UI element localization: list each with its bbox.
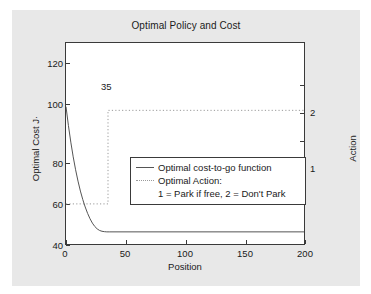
- legend-label-cost: Optimal cost-to-go function: [158, 162, 272, 174]
- x-axis-tick-label-100: 100: [165, 248, 205, 259]
- legend-item-cost: Optimal cost-to-go function: [135, 161, 301, 174]
- legend-item-action: Optimal Action:: [135, 174, 301, 187]
- action-axis-tick-label-2: 2: [310, 107, 330, 118]
- legend-dotted-line-sample: [135, 175, 155, 186]
- figure-canvas: Optimal Policy and Cost 40 60 80 100 120…: [12, 10, 360, 286]
- y-tick-40: [66, 245, 70, 246]
- y-axis-tick-label-120: 120: [23, 58, 63, 69]
- action-axis-tick-label-1: 1: [310, 163, 330, 174]
- x-axis-tick-label-200: 200: [285, 248, 325, 259]
- legend-solid-line-sample: [135, 162, 155, 173]
- chart-legend[interactable]: Optimal cost-to-go function Optimal Acti…: [130, 157, 306, 205]
- chart-title: Optimal Policy and Cost: [12, 20, 360, 31]
- x-axis-tick-label-50: 50: [105, 248, 145, 259]
- legend-label-action: Optimal Action:: [158, 175, 222, 187]
- plot-area: [65, 42, 305, 245]
- legend-item-action-detail: 1 = Park if free, 2 = Don't Park: [135, 187, 301, 200]
- y-axis-title: Optimal Cost J·: [30, 89, 41, 209]
- x-axis-tick-label-150: 150: [225, 248, 265, 259]
- plot-curves: [66, 43, 304, 244]
- chart-svg: [66, 43, 304, 244]
- x-axis-tick-label-0: 0: [45, 248, 85, 259]
- x-axis-title: Position: [65, 261, 305, 272]
- legend-label-action-detail: 1 = Park if free, 2 = Don't Park: [135, 188, 286, 200]
- x-tick-200: [305, 240, 306, 244]
- action-axis-title: Action: [347, 89, 358, 209]
- annotation-label-35: 35: [101, 81, 112, 92]
